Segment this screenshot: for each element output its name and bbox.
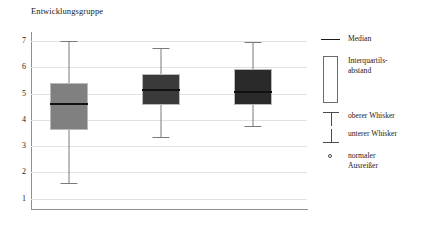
plot-area: 1234567t1t2t3 bbox=[31, 32, 307, 209]
legend-label: normaler Ausreißer bbox=[344, 151, 378, 170]
lower-whisker-cap bbox=[245, 126, 262, 127]
iqr-box bbox=[234, 69, 272, 106]
lower-whisker-stem-icon bbox=[331, 129, 332, 143]
lower-whisker-cap bbox=[61, 183, 78, 184]
upper-whisker-line bbox=[253, 42, 254, 68]
legend-item: Interquartils- abstand bbox=[318, 56, 388, 105]
iqr-box-icon bbox=[323, 56, 338, 103]
legend-item: unterer Whisker bbox=[318, 129, 397, 145]
median-line bbox=[142, 89, 180, 91]
legend-label: oberer Whisker bbox=[344, 111, 395, 121]
legend-label: unterer Whisker bbox=[344, 129, 397, 139]
lower-whisker-line bbox=[69, 130, 70, 182]
iqr-box bbox=[50, 83, 88, 130]
boxplot-t1: t1 bbox=[23, 32, 115, 209]
chart-title: Entwicklungsgruppe bbox=[31, 6, 103, 16]
legend-label: Median bbox=[344, 34, 371, 44]
legend-item: Median bbox=[318, 34, 371, 46]
lower-whisker-line bbox=[161, 105, 162, 136]
legend-glyph bbox=[318, 151, 344, 163]
legend-item: normaler Ausreißer bbox=[318, 151, 378, 170]
upper-whisker-line bbox=[69, 41, 70, 83]
lower-whisker-cap bbox=[153, 137, 170, 138]
legend-glyph bbox=[318, 111, 344, 127]
lower-whisker-cap-icon bbox=[323, 142, 339, 143]
x-axis-line bbox=[31, 209, 308, 210]
legend-label: Interquartils- abstand bbox=[344, 56, 388, 75]
outlier-circle-icon bbox=[328, 154, 332, 158]
lower-whisker-line bbox=[253, 105, 254, 126]
boxplot-t3: t3 bbox=[207, 32, 299, 209]
legend-glyph bbox=[318, 56, 344, 105]
boxplot-chart: Entwicklungsgruppe 1234567t1t2t3 MedianI… bbox=[0, 0, 425, 239]
upper-whisker-stem-icon bbox=[331, 112, 332, 126]
upper-whisker-cap bbox=[153, 48, 170, 49]
legend-glyph bbox=[318, 129, 344, 145]
legend-glyph bbox=[318, 34, 344, 46]
upper-whisker-line bbox=[161, 48, 162, 74]
median-line-icon bbox=[321, 39, 340, 40]
upper-whisker-cap bbox=[61, 41, 78, 42]
median-line bbox=[50, 103, 88, 105]
legend-item: oberer Whisker bbox=[318, 111, 395, 127]
upper-whisker-cap bbox=[245, 42, 262, 43]
boxplot-t2: t2 bbox=[115, 32, 207, 209]
median-line bbox=[234, 91, 272, 93]
